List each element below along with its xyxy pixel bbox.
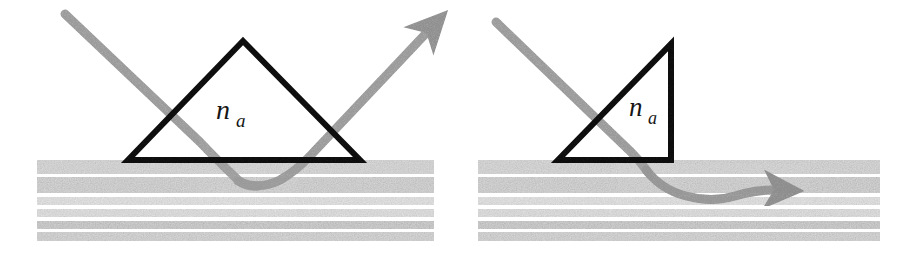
left-prism-label: n a xyxy=(216,94,246,131)
right-substrate xyxy=(478,160,880,241)
substrate-layer xyxy=(37,221,434,229)
figure-root: n a n a xyxy=(0,0,903,254)
left-label-subscript: a xyxy=(236,110,246,131)
substrate-layer xyxy=(37,197,434,205)
substrate-layer xyxy=(37,209,434,217)
left-panel: n a xyxy=(37,14,434,241)
substrate-layer xyxy=(37,232,434,241)
substrate-layer xyxy=(478,160,880,174)
substrate-layer xyxy=(478,221,880,229)
substrate-layer xyxy=(478,232,880,241)
left-label-n: n xyxy=(216,94,230,125)
diagram-canvas: n a n a xyxy=(0,0,903,254)
right-label-n: n xyxy=(629,92,643,122)
right-panel: n a xyxy=(478,22,880,241)
right-label-subscript: a xyxy=(648,108,657,128)
substrate-layer xyxy=(478,209,880,217)
right-prism-label: n a xyxy=(629,92,657,128)
